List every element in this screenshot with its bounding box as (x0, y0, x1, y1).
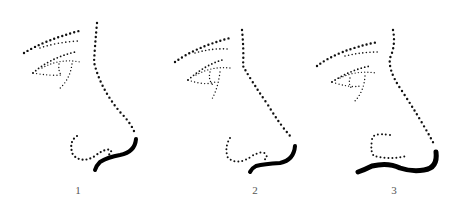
brow-line (317, 42, 378, 66)
figure-label-2: 2 (245, 184, 265, 196)
figure-3 (317, 30, 436, 172)
nostril (371, 134, 406, 158)
brow-line (175, 38, 230, 62)
brow-line (24, 31, 79, 53)
nostril (71, 136, 111, 160)
eye-line (188, 60, 222, 80)
nostril (226, 138, 266, 162)
nose-bridge (94, 23, 135, 134)
nose-tip-outline (95, 139, 136, 170)
nose-profiles-illustration (0, 0, 459, 204)
nose-bridge (390, 30, 434, 144)
nose-bridge (242, 30, 292, 138)
nose-tip-outline (358, 152, 436, 172)
figure-1 (24, 23, 136, 170)
figure-2 (175, 30, 295, 172)
figure-label-3: 3 (384, 184, 404, 196)
nose-tip-outline (250, 146, 295, 172)
figure-label-1: 1 (68, 184, 88, 196)
